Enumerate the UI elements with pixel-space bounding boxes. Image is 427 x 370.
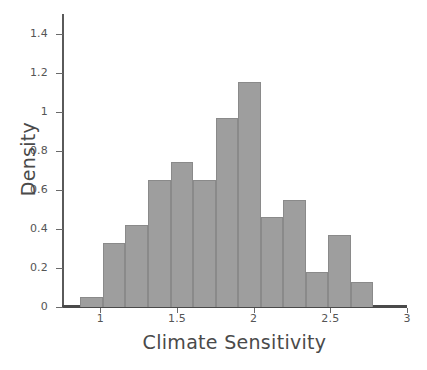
y-tick-mark — [56, 268, 63, 269]
histogram-bar — [238, 82, 261, 307]
histogram-bar — [216, 118, 239, 307]
histogram-bar — [171, 162, 194, 307]
histogram-bar — [261, 217, 284, 307]
histogram-bar — [103, 243, 126, 307]
x-tick-label: 1.5 — [157, 312, 197, 325]
y-tick-mark — [56, 307, 63, 308]
histogram-bar — [283, 200, 306, 307]
y-tick-mark — [56, 151, 63, 152]
histogram-chart: 00.20.40.60.811.21.4 11.522.53 Climate S… — [0, 0, 427, 370]
y-tick-mark — [56, 73, 63, 74]
histogram-bar — [125, 225, 148, 307]
y-tick-mark — [56, 190, 63, 191]
y-tick-label: 0 — [41, 300, 48, 313]
histogram-bars — [62, 14, 407, 307]
y-tick-mark — [56, 229, 63, 230]
histogram-bar — [148, 180, 171, 307]
y-tick-mark — [56, 34, 63, 35]
x-axis-title: Climate Sensitivity — [62, 331, 407, 353]
y-tick-mark — [56, 112, 63, 113]
x-tick-label: 3 — [387, 312, 427, 325]
histogram-bar — [80, 297, 103, 307]
y-tick-label: 1.4 — [30, 27, 48, 40]
y-axis-title: Density — [17, 49, 39, 269]
x-tick-label: 2 — [234, 312, 274, 325]
histogram-bar — [328, 235, 351, 307]
x-tick-label: 1 — [80, 312, 120, 325]
histogram-bar — [306, 272, 329, 307]
y-tick-label: 1 — [41, 105, 48, 118]
x-tick-label: 2.5 — [310, 312, 350, 325]
histogram-bar — [193, 180, 216, 307]
histogram-bar — [351, 282, 374, 307]
plot-area — [62, 14, 407, 307]
